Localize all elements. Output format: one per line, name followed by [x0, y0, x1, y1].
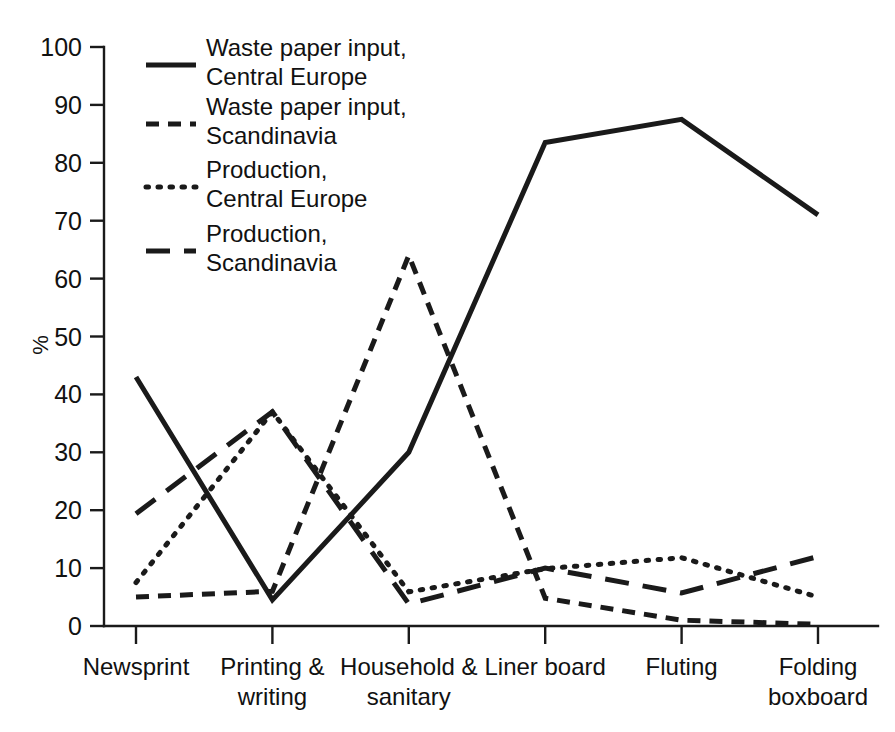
x-tick-marks	[136, 626, 818, 644]
y-tick-label: 60	[54, 265, 82, 293]
legend-label-3: Production,Central Europe	[206, 156, 367, 212]
y-tick-label: 100	[40, 33, 82, 61]
y-tick-label: 40	[54, 380, 82, 408]
chart-legend: Waste paper input,Central EuropeWaste pa…	[146, 34, 407, 276]
x-tick-label: Printing &writing	[220, 653, 324, 710]
y-tick-label: 20	[54, 496, 82, 524]
x-tick-labels: NewsprintPrinting &writingHousehold &san…	[83, 653, 868, 710]
legend-label-1: Waste paper input,Central Europe	[206, 34, 407, 90]
y-tick-label: 90	[54, 91, 82, 119]
legend-label-2: Waste paper input,Scandinavia	[206, 93, 407, 149]
y-axis-title: %	[28, 335, 53, 355]
y-tick-label: 0	[68, 612, 82, 640]
x-tick-label: Household &sanitary	[340, 653, 477, 710]
legend-label-4: Production,Scandinavia	[206, 220, 337, 276]
line-chart-svg: 1009080706050403020100 % NewsprintPrinti…	[0, 0, 895, 732]
y-tick-label: 30	[54, 438, 82, 466]
x-tick-label: Liner board	[484, 653, 605, 680]
series-line-4	[136, 412, 818, 604]
chart-figure: 1009080706050403020100 % NewsprintPrinti…	[0, 0, 895, 732]
y-tick-marks	[90, 47, 104, 626]
y-tick-label: 50	[54, 323, 82, 351]
y-tick-label: 80	[54, 149, 82, 177]
y-tick-label: 10	[54, 554, 82, 582]
x-tick-label: Fluting	[646, 653, 718, 680]
x-tick-label: Foldingboxboard	[768, 653, 868, 710]
y-tick-label: 70	[54, 207, 82, 235]
x-tick-label: Newsprint	[83, 653, 190, 680]
